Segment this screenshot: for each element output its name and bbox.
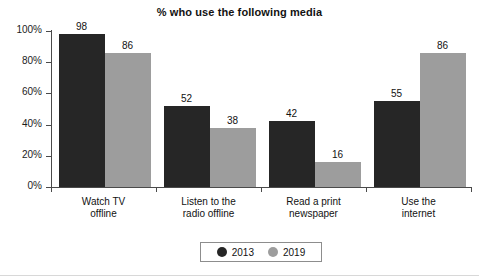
bar bbox=[105, 53, 151, 187]
category-label-line: internet bbox=[366, 208, 471, 220]
x-axis-tick-mark bbox=[261, 187, 262, 192]
bar-value-label: 42 bbox=[269, 108, 315, 119]
bar bbox=[315, 162, 361, 187]
legend-label: 2019 bbox=[283, 247, 305, 258]
legend-item: 2019 bbox=[268, 247, 305, 258]
bar bbox=[374, 101, 420, 187]
y-axis-tick-mark bbox=[46, 62, 51, 63]
x-axis-category-label: Use theinternet bbox=[366, 196, 471, 220]
bar-value-label: 38 bbox=[210, 115, 256, 126]
y-axis-tick-mark bbox=[46, 93, 51, 94]
category-label-line: offline bbox=[51, 208, 156, 220]
x-axis-tick-mark bbox=[156, 187, 157, 192]
y-axis-tick-label: 0% bbox=[28, 180, 42, 191]
x-axis-tick-mark bbox=[471, 187, 472, 192]
y-axis-tick-label: 20% bbox=[22, 149, 42, 160]
category-label-line: Read a print bbox=[261, 196, 366, 208]
legend-swatch-circle-icon bbox=[268, 247, 278, 257]
y-axis-tick-label: 60% bbox=[22, 86, 42, 97]
category-label-line: radio offline bbox=[156, 208, 261, 220]
bar bbox=[269, 121, 315, 187]
category-label-line: newspaper bbox=[261, 208, 366, 220]
y-axis-tick-mark bbox=[46, 156, 51, 157]
x-axis-tick-mark bbox=[51, 187, 52, 192]
chart-legend: 20132019 bbox=[200, 242, 322, 262]
category-label-line: Watch TV bbox=[51, 196, 156, 208]
bar-value-label: 98 bbox=[59, 21, 105, 32]
bar-chart: % who use the following media 0%20%40%60… bbox=[0, 0, 479, 276]
plot-area: 9886523842165586 bbox=[52, 31, 471, 187]
bar-value-label: 86 bbox=[105, 40, 151, 51]
bar bbox=[59, 34, 105, 187]
x-axis-category-label: Watch TVoffline bbox=[51, 196, 156, 220]
y-axis-tick-label: 100% bbox=[16, 24, 42, 35]
bar-value-label: 16 bbox=[315, 149, 361, 160]
bar-value-label: 86 bbox=[420, 40, 466, 51]
x-axis-category-label: Listen to theradio offline bbox=[156, 196, 261, 220]
y-axis-tick-mark bbox=[46, 125, 51, 126]
bar-value-label: 52 bbox=[164, 93, 210, 104]
bar bbox=[164, 106, 210, 187]
legend-swatch-circle-icon bbox=[217, 247, 227, 257]
chart-title: % who use the following media bbox=[0, 6, 479, 18]
legend-item: 2013 bbox=[217, 247, 254, 258]
y-axis-tick-label: 80% bbox=[22, 55, 42, 66]
legend-label: 2013 bbox=[232, 247, 254, 258]
category-label-line: Use the bbox=[366, 196, 471, 208]
y-axis-tick-mark bbox=[46, 31, 51, 32]
bar-value-label: 55 bbox=[374, 88, 420, 99]
bar bbox=[420, 53, 466, 187]
bar bbox=[210, 128, 256, 187]
x-axis-category-label: Read a printnewspaper bbox=[261, 196, 366, 220]
y-axis-tick-label: 40% bbox=[22, 118, 42, 129]
x-axis-tick-mark bbox=[366, 187, 367, 192]
category-label-line: Listen to the bbox=[156, 196, 261, 208]
